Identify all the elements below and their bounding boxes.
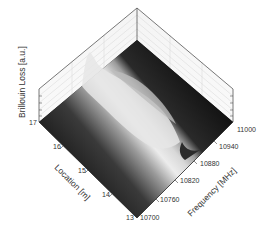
location-tick-16: 16 (53, 143, 61, 150)
chart-root: Brillouin Loss [a.u.] 17 16 15 14 13 Loc… (0, 0, 265, 230)
z-axis-label: Brillouin Loss [a.u.] (18, 46, 27, 118)
frequency-tick-10820: 10820 (180, 177, 199, 184)
surface-plot (0, 0, 265, 230)
frequency-tick-10880: 10880 (200, 160, 219, 167)
frequency-tick-10700: 10700 (140, 214, 159, 221)
frequency-tick-11000: 11000 (237, 126, 256, 133)
location-tick-17: 17 (29, 119, 37, 126)
location-tick-14: 14 (102, 191, 110, 198)
frequency-tick-10940: 10940 (219, 143, 238, 150)
location-tick-15: 15 (78, 167, 86, 174)
frequency-tick-10760: 10760 (160, 196, 179, 203)
location-tick-13: 13 (126, 214, 134, 221)
